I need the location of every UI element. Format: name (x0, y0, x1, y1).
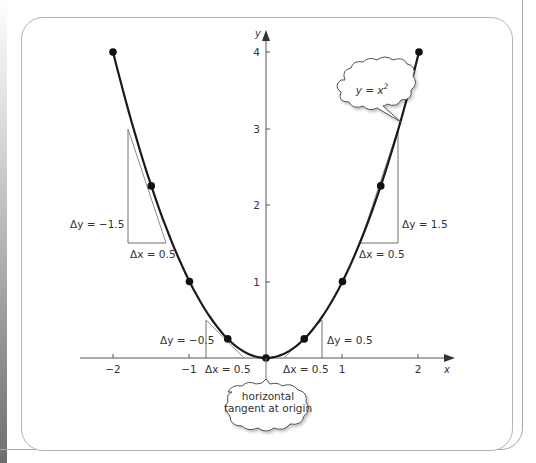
dy-label-left-big: Δy = −1.5 (70, 218, 124, 230)
dy-label-right-small: Δy = 0.5 (327, 334, 373, 346)
tick-x-1: 1 (339, 363, 346, 375)
parabola-figure: −2 −1 1 2 x 1 2 3 4 y Δy = −1.5 Δx = 0.5… (0, 0, 536, 463)
slope-triangle-left-big (128, 129, 166, 243)
point-x-2 (415, 48, 423, 56)
point-x-minus1 (186, 278, 194, 286)
point-x-minus2 (109, 48, 117, 56)
tick-x-2: 2 (415, 363, 422, 375)
tick-y-2: 2 (253, 199, 260, 211)
dy-label-left-small: Δy = −0.5 (160, 334, 214, 346)
tick-y-1: 1 (253, 276, 260, 288)
dx-label-left-small: Δx = 0.5 (205, 363, 251, 375)
y-axis-arrow-icon (262, 30, 270, 41)
dx-label-right-small: Δx = 0.5 (283, 363, 329, 375)
y-axis-label: y (254, 28, 262, 39)
point-x-1 (339, 278, 347, 286)
point-x-0.5 (300, 335, 308, 343)
tick-x-minus1: −1 (181, 363, 196, 375)
callout-function-text: y = x2 (355, 82, 389, 96)
dx-label-left-big: Δx = 0.5 (130, 248, 176, 260)
dx-label-right-big: Δx = 0.5 (359, 248, 405, 260)
dy-label-right-big: Δy = 1.5 (402, 218, 448, 230)
tick-y-4: 4 (253, 46, 260, 58)
tick-x-minus2: −2 (105, 363, 120, 375)
callout-origin-line1: horizontal (242, 390, 294, 402)
tick-y-3: 3 (253, 123, 260, 135)
point-x-minus0.5 (224, 335, 232, 343)
point-x-1.5 (377, 182, 385, 190)
x-axis-label: x (443, 364, 450, 375)
callout-origin-line2: tangent at origin (224, 402, 312, 414)
x-axis-arrow-icon (444, 354, 455, 362)
point-x-minus1.5 (147, 182, 155, 190)
y-axis: 1 2 3 4 y (253, 28, 270, 358)
